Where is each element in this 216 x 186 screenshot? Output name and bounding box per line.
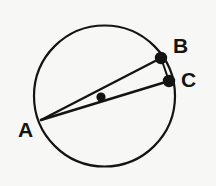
point-b-dot	[155, 52, 167, 64]
circle-center-dot	[96, 92, 105, 101]
geometry-canvas	[0, 0, 216, 186]
point-c-dot	[163, 75, 175, 87]
point-label-c: C	[181, 69, 196, 90]
geometry-figure: A B C	[0, 0, 216, 186]
point-label-a: A	[18, 119, 33, 140]
point-label-b: B	[173, 35, 188, 56]
